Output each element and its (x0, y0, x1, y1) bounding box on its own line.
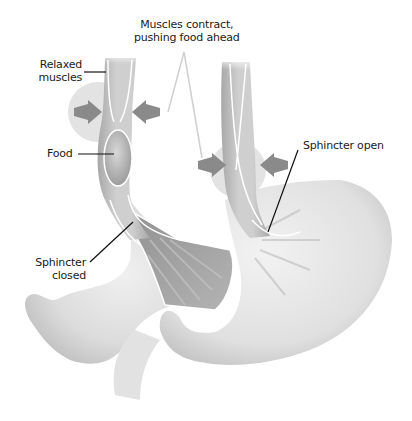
contraction-arrow-icon (132, 100, 160, 124)
muscles-contract-pointer (168, 52, 202, 158)
sphincter-closed-leader (90, 222, 133, 262)
relaxed-muscles-label-line1: Relaxed (32, 58, 82, 71)
left-esophagus (68, 58, 180, 245)
muscles-contract-label: Muscles contract, pushing food ahead (134, 18, 240, 44)
muscles-contract-label-line2: pushing food ahead (134, 31, 240, 44)
muscles-contract-label-line1: Muscles contract, (134, 18, 240, 31)
sphincter-open-label: Sphincter open (303, 139, 384, 152)
food-label: Food (47, 147, 73, 160)
sphincter-closed-label-line1: Sphincter (28, 256, 86, 269)
relaxed-muscles-label: Relaxed muscles (32, 58, 82, 84)
sphincter-closed-label: Sphincter closed (28, 256, 86, 282)
sphincter-closed-label-line2: closed (28, 269, 86, 282)
relaxed-muscles-label-line2: muscles (32, 71, 82, 84)
food-bolus (104, 130, 132, 186)
